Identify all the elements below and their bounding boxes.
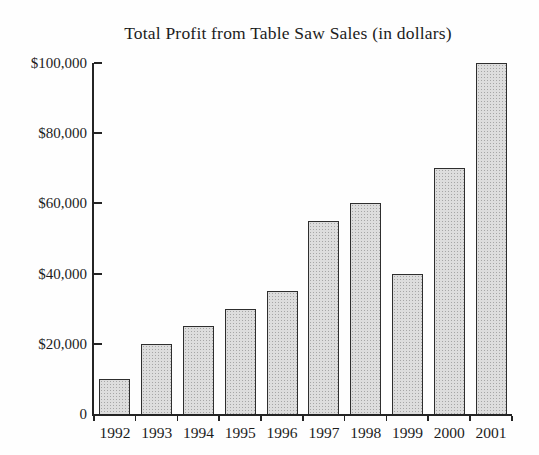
x-axis-tick <box>469 416 471 421</box>
y-axis-tick-label: $60,000 <box>0 194 87 212</box>
y-axis-tick-label: 0 <box>0 405 87 423</box>
x-axis-tick <box>177 416 179 421</box>
x-axis-label-1993: 1993 <box>135 424 179 442</box>
x-axis-label-1998: 1998 <box>344 424 388 442</box>
x-axis-tick <box>386 416 388 421</box>
x-axis-label-1995: 1995 <box>218 424 262 442</box>
y-axis-tick-label: $40,000 <box>0 265 87 283</box>
x-axis-label-1994: 1994 <box>177 424 221 442</box>
bar-chart-figure: Total Profit from Table Saw Sales (in do… <box>0 0 539 455</box>
bar-1998 <box>350 203 381 414</box>
bar-1999 <box>392 274 423 414</box>
x-axis-tick <box>427 416 429 421</box>
y-axis-tick <box>94 132 102 134</box>
bar-1994 <box>183 326 214 414</box>
bar-1997 <box>308 221 339 414</box>
y-axis-tick-label: $100,000 <box>0 54 87 72</box>
x-axis-label-1996: 1996 <box>260 424 304 442</box>
x-axis-tick <box>135 416 137 421</box>
y-axis-tick <box>94 202 102 204</box>
chart-title: Total Profit from Table Saw Sales (in do… <box>68 23 508 44</box>
x-axis-label-1999: 1999 <box>386 424 430 442</box>
x-axis-label-2000: 2000 <box>427 424 471 442</box>
x-axis-label-1997: 1997 <box>302 424 346 442</box>
y-axis-tick <box>94 273 102 275</box>
x-axis-tick <box>511 416 513 421</box>
bar-1996 <box>267 291 298 414</box>
x-axis-label-2001: 2001 <box>469 424 513 442</box>
y-axis-tick-label: $20,000 <box>0 335 87 353</box>
x-axis-tick <box>302 416 304 421</box>
bar-1992 <box>99 379 130 414</box>
x-axis-tick <box>218 416 220 421</box>
y-axis <box>92 63 94 416</box>
bar-1995 <box>225 309 256 414</box>
x-axis-tick <box>344 416 346 421</box>
x-axis-tick <box>260 416 262 421</box>
y-axis-tick-label: $80,000 <box>0 124 87 142</box>
bar-1993 <box>141 344 172 414</box>
x-axis-tick <box>93 416 95 421</box>
bar-2001 <box>476 63 507 414</box>
x-axis-label-1992: 1992 <box>93 424 137 442</box>
y-axis-tick <box>94 62 102 64</box>
y-axis-tick <box>94 343 102 345</box>
bar-2000 <box>434 168 465 414</box>
